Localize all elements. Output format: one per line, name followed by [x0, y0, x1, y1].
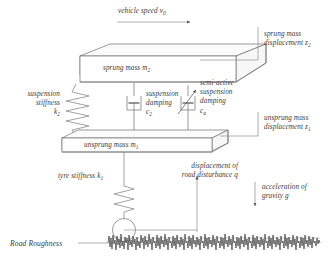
quarter-car-model-diagram: vehicle speed v0 sprung mass displacemen…: [0, 0, 334, 258]
road-disturbance-line1: displacement of: [138, 162, 238, 171]
label-gravity: acceleration of gravity g: [262, 183, 307, 201]
label-suspension-stiffness: suspension stiffness k2: [0, 90, 60, 120]
road-roughness-text: Road Roughness: [10, 239, 62, 248]
sprung-displacement-sub: 2: [308, 43, 311, 49]
label-sprung-mass: sprung mass m2: [103, 64, 150, 76]
label-road-roughness: Road Roughness: [10, 239, 62, 248]
sprung-mass-box: [80, 44, 266, 82]
suspension-stiffness-line1: suspension: [0, 90, 60, 99]
unsprung-mass-text: unsprung mass m: [84, 141, 136, 149]
vehicle-speed-sub: 0: [163, 10, 166, 16]
tyre-stiffness-text: tyre stiffness k: [58, 172, 100, 180]
unsprung-displacement-sub: 1: [308, 127, 311, 133]
sprung-mass-sub: 2: [147, 67, 150, 73]
gravity-line2: gravity g: [262, 192, 307, 201]
semi-active-line2: suspension: [200, 88, 234, 97]
gravity-line1: acceleration of: [262, 183, 307, 192]
label-suspension-damping: suspension damping c2: [146, 90, 179, 120]
vehicle-speed-text: vehicle speed v: [118, 7, 163, 15]
sprung-displacement-line2: displacement z: [264, 39, 308, 47]
road-roughness-profile: [108, 234, 320, 250]
unsprung-mass-sub: 1: [136, 144, 139, 150]
semi-active-line1: semi-active: [200, 79, 234, 88]
suspension-damping-line2: damping: [146, 99, 179, 108]
label-semi-active-damping: semi-active suspension damping ca: [200, 79, 234, 118]
tyre-stiffness-sub: 1: [100, 175, 103, 181]
label-vehicle-speed: vehicle speed v0: [118, 7, 166, 19]
label-road-disturbance: displacement of road disturbance q: [138, 162, 238, 180]
suspension-damping-sub: 2: [149, 112, 152, 118]
label-tyre-stiffness: tyre stiffness k1: [58, 172, 103, 184]
suspension-stiffness-sub: 2: [57, 112, 60, 118]
label-unsprung-displacement: unsprung mass displacement z1: [264, 114, 311, 135]
sprung-mass-text: sprung mass m: [103, 64, 147, 72]
suspension-damping-line1: suspension: [146, 90, 179, 99]
semi-active-sub: a: [203, 110, 206, 116]
road-disturbance-line2: road disturbance q: [138, 171, 238, 180]
suspension-spring: [66, 84, 89, 137]
road-disturbance-arrow: [136, 176, 197, 232]
label-unsprung-mass: unsprung mass m1: [84, 141, 139, 153]
semi-active-line3: damping: [200, 97, 234, 106]
unsprung-displacement-line2: displacement z: [264, 123, 308, 131]
label-sprung-displacement: sprung mass displacement z2: [264, 30, 311, 51]
sprung-displacement-line1: sprung mass: [264, 30, 311, 39]
unsprung-displacement-line1: unsprung mass: [264, 114, 311, 123]
tyre-spring: [114, 152, 134, 219]
suspension-stiffness-line2: stiffness: [0, 99, 60, 108]
